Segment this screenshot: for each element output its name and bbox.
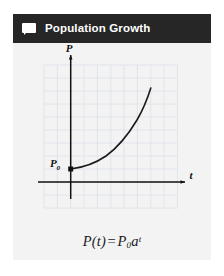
speech-bubble-tail [24,32,27,35]
equation-variable: t [97,233,101,249]
card-title: Population Growth [45,23,150,35]
card-body-panel: P t P0 P(t)=P0at [13,43,211,260]
x-axis-label: t [189,169,193,181]
equation-function-name: P [83,233,92,249]
speech-bubble-icon [22,23,36,35]
population-growth-card: Population Growth [13,14,211,260]
equation-base: a [131,233,138,249]
plot-grid [44,65,178,208]
equation-equals: = [106,233,117,249]
y-axis [69,55,73,199]
y-axis-label: P [66,43,73,54]
equation-exponent: t [139,234,142,244]
population-growth-plot: P t P0 [13,43,211,223]
card-header: Population Growth [13,14,211,43]
initial-population-point [68,167,73,172]
equation-caption: P(t)=P0at [13,223,211,260]
x-axis [38,180,185,184]
equation-text: P(t)=P0at [83,233,142,250]
